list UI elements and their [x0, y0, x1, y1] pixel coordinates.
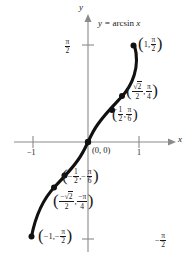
data-point-origin: [85, 139, 91, 145]
x-value: −1,: [44, 232, 55, 241]
fraction-sqrt2-over-2: √2 2: [132, 83, 143, 100]
open-paren: (: [112, 108, 117, 121]
fraction-numerator: √2: [132, 83, 143, 92]
plot-canvas: [0, 0, 193, 265]
x-value: 1,: [144, 40, 150, 49]
equation-y-var: y: [98, 18, 102, 28]
close-paren: ): [157, 37, 163, 51]
equation-argument: x: [136, 18, 140, 28]
fraction-denominator: 2: [160, 241, 166, 249]
close-paren: ): [93, 169, 99, 183]
x-axis-arrowhead: [168, 139, 176, 146]
close-paren: ): [133, 108, 138, 121]
y-negative-sign: −: [55, 232, 60, 241]
fraction-negative-half-pi: π 2: [160, 232, 166, 249]
fraction-denominator: 2: [132, 92, 143, 100]
equation-equals: =: [104, 18, 110, 28]
fraction-half-pi: π 2: [65, 38, 71, 55]
pi-symbol: π: [82, 192, 86, 201]
point-label-origin: (0, 0): [92, 146, 110, 155]
point-label-neg1-neghalfpi: (−1,− π 2 ): [38, 228, 72, 245]
negative-sign: −: [155, 236, 160, 245]
open-paren: (: [53, 194, 59, 208]
x-negative-sign: −: [68, 172, 73, 181]
close-paren: ): [88, 194, 94, 208]
fraction-half-pi: π 2: [151, 36, 157, 53]
y-axis-arrowhead: [85, 14, 92, 22]
fraction-numerator: π: [146, 83, 152, 92]
point-label-negsqrt2over2-negquarterpi: ( −√2 2 , −π 4 ): [53, 193, 93, 210]
fraction-one-half: 1 2: [73, 168, 79, 185]
data-point-negsqrt2over2-negquarterpi: [51, 185, 57, 191]
fraction-denominator: 2: [59, 202, 74, 210]
equation-function-name: arcsin: [113, 18, 135, 28]
fraction-numerator: −π: [77, 193, 87, 202]
fraction-numerator: −√2: [59, 193, 74, 202]
close-paren: ): [152, 84, 158, 98]
open-paren: (: [126, 84, 132, 98]
x-axis-label: x: [178, 135, 182, 144]
point-label-half-sixthpi: ( 1 2 , π 6 ): [112, 106, 138, 123]
fraction-neg-quarter-pi: −π 4: [77, 193, 87, 210]
data-point-neg1-neghalfpi: [29, 234, 35, 240]
data-point-1-halfpi: [131, 43, 137, 49]
fraction-denominator: 2: [151, 45, 157, 53]
radicand: 2: [137, 81, 142, 91]
equation-title: y = arcsin x: [98, 19, 140, 28]
point-label-neghalf-negsixthpi: (− 1 2 ,− π 6 ): [62, 168, 99, 185]
fraction-denominator: 6: [126, 115, 132, 123]
y-tick-label-negative-half-pi: − π 2: [155, 232, 167, 249]
fraction-denominator: 2: [60, 237, 66, 245]
fraction-one-half: 1 2: [118, 106, 124, 123]
point-label-1-halfpi: (1, π 2 ): [138, 36, 163, 53]
y-axis-label: y: [79, 3, 83, 12]
fraction-denominator: 6: [87, 177, 93, 185]
fraction-denominator: 2: [65, 47, 71, 55]
data-point-sqrt2over2-quarterpi: [119, 93, 125, 99]
radicand: 2: [68, 191, 73, 201]
fraction-sixth-pi: π 6: [87, 168, 93, 185]
fraction-half-pi: π 2: [60, 228, 66, 245]
fraction-denominator: 2: [73, 177, 79, 185]
x-tick-label-negative-one: −1: [27, 149, 36, 157]
point-label-sqrt2over2-quarterpi: ( √2 2 , π 4 ): [126, 83, 158, 100]
close-paren: ): [66, 229, 72, 243]
fraction-neg-sqrt2-over-2: −√2 2: [59, 193, 74, 210]
y-negative-sign: −: [81, 172, 86, 181]
fraction-sixth-pi: π 6: [126, 106, 132, 123]
fraction-denominator: 4: [146, 92, 152, 100]
x-tick-label-positive-one: 1: [137, 149, 141, 157]
fraction-quarter-pi: π 4: [146, 83, 152, 100]
arcsin-graph-figure: y x y = arcsin x π 2 − π 2 −1 1 (0, 0) (…: [0, 0, 193, 265]
fraction-denominator: 4: [77, 202, 87, 210]
y-tick-label-half-pi: π 2: [64, 38, 71, 55]
fraction-denominator: 2: [118, 115, 124, 123]
